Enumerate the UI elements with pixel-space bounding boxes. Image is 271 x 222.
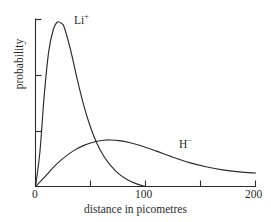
x-tick-label-0: 0 <box>32 189 38 201</box>
chart-figure: 0 100 200 Li+ H− distance in picometres … <box>0 0 271 222</box>
series-label-lithium-text: Li <box>74 14 84 26</box>
series-label-hydride-charge: − <box>187 136 192 145</box>
series-label-lithium: Li+ <box>74 15 89 27</box>
y-axis-title-wrapper: probability <box>13 9 25 119</box>
x-tick-group <box>36 181 256 187</box>
curve-lithium-cation <box>36 22 146 187</box>
curve-hydride-anion <box>36 140 256 187</box>
x-axis-title: distance in picometres <box>0 203 271 215</box>
y-tick-group <box>36 76 42 132</box>
x-tick-label-100: 100 <box>135 189 152 201</box>
series-label-hydride: H− <box>179 139 192 151</box>
x-tick-label-200: 200 <box>245 189 262 201</box>
axes-group <box>36 19 256 187</box>
series-label-lithium-charge: + <box>84 12 89 21</box>
y-axis-title: probability <box>13 39 25 89</box>
series-group <box>36 22 256 187</box>
